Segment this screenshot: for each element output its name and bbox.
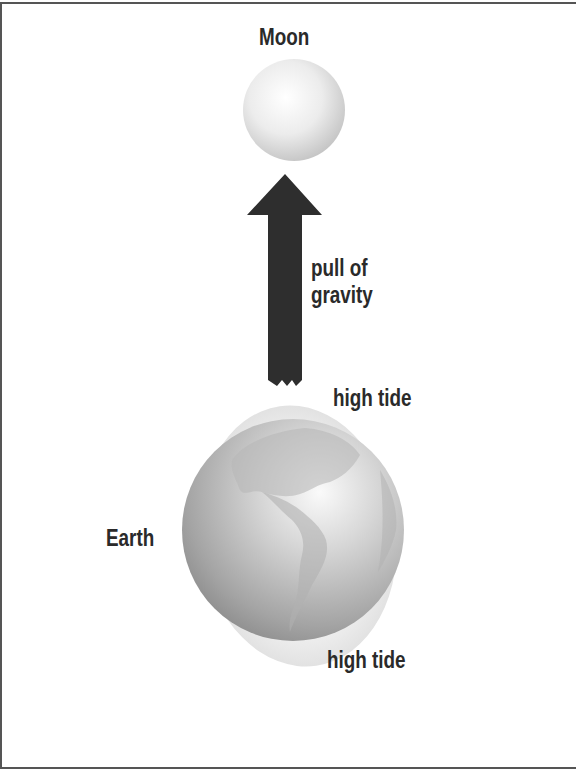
pull-of-gravity-label-line1: pull of: [311, 256, 368, 280]
high-tide-top-label: high tide: [333, 386, 412, 410]
earth-label: Earth: [106, 526, 154, 550]
tides-diagram: [0, 0, 576, 771]
moon-label: Moon: [259, 25, 309, 49]
earth-globe-icon: [182, 419, 404, 641]
moon-icon: [243, 59, 345, 161]
high-tide-bottom-label: high tide: [327, 648, 406, 672]
pull-of-gravity-label-line2: gravity: [311, 283, 373, 307]
